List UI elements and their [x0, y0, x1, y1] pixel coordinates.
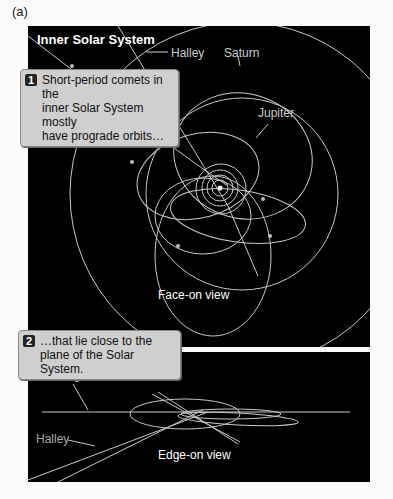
figure-label: (a) [12, 4, 28, 19]
callout-text: …that lie close to the [40, 334, 174, 348]
callout-1: 1 Short-period comets in the inner Solar… [20, 69, 179, 147]
callout-number: 2 [23, 335, 35, 347]
label-halley: Halley [36, 432, 69, 446]
callout-text: have prograde orbits… [42, 129, 172, 143]
label-saturn: Saturn [224, 46, 259, 60]
label-face-on-view: Face-on view [158, 288, 229, 302]
callout-number: 1 [25, 74, 37, 86]
label-edge-on-view: Edge-on view [158, 448, 231, 462]
panel-title: Inner Solar System [37, 32, 155, 47]
callout-text: plane of the Solar System. [40, 348, 174, 376]
callout-text: Short-period comets in the [42, 73, 172, 101]
callout-text: inner Solar System mostly [42, 101, 172, 129]
callout-2: 2 …that lie close to the plane of the So… [18, 330, 181, 380]
label-jupiter: Jupiter [258, 106, 294, 120]
label-halley: Halley [171, 46, 204, 60]
